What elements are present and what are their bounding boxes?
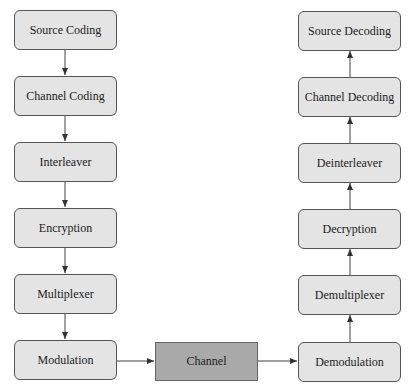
source-coding-block: Source Coding [14,10,117,50]
demultiplexer-block: Demultiplexer [298,275,401,315]
deinterleaver-block: Deinterleaver [298,143,401,183]
source-decoding-block: Source Decoding [298,11,401,51]
interleaver-block: Interleaver [14,142,117,182]
encryption-block: Encryption [14,208,117,248]
multiplexer-block: Multiplexer [14,274,117,314]
demodulation-block: Demodulation [298,342,401,382]
arrows-layer [0,0,412,390]
decryption-block: Decryption [298,209,401,249]
channel-decoding-block: Channel Decoding [298,77,401,117]
channel-block: Channel [155,342,258,381]
modulation-block: Modulation [14,340,117,380]
channel-coding-block: Channel Coding [14,76,117,116]
